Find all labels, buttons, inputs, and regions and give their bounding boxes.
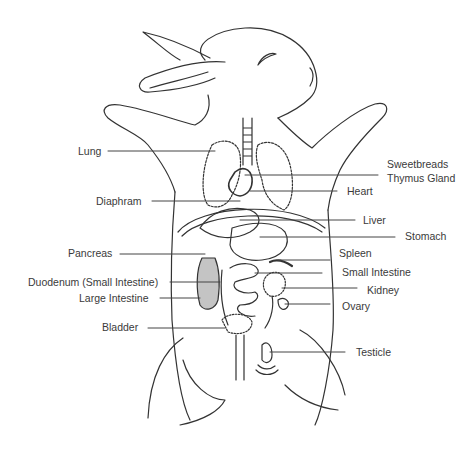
rabbit-right-hind-leg (285, 330, 345, 410)
rabbit-back-ear (143, 32, 210, 60)
label-thymus-gland: Thymus Gland (387, 172, 455, 184)
testicle (262, 343, 272, 362)
trachea (243, 118, 252, 165)
heart (229, 169, 252, 196)
label-sweetbreads: Sweetbreads (387, 158, 448, 170)
bladder (222, 314, 252, 333)
label-testicle: Testicle (356, 346, 391, 358)
label-duodenum: Duodenum (Small Intestine) (28, 276, 158, 288)
liver (200, 208, 259, 237)
rabbit-nose (310, 68, 313, 86)
label-lung: Lung (78, 145, 101, 157)
large-intestine (197, 258, 219, 309)
label-pancreas: Pancreas (68, 247, 112, 259)
rabbit-left-arm (104, 95, 209, 192)
rabbit-outline-drawing (0, 0, 475, 451)
label-spleen: Spleen (339, 247, 372, 259)
label-bladder: Bladder (102, 321, 138, 333)
label-ovary: Ovary (342, 300, 370, 312)
spleen (270, 260, 292, 266)
label-heart: Heart (347, 185, 373, 197)
stomach (230, 223, 287, 260)
label-large-intestine: Large Intestine (79, 292, 148, 304)
small-intestine (230, 264, 258, 317)
rabbit-body-left (171, 192, 190, 420)
label-kidney: Kidney (367, 284, 399, 296)
rabbit-eye (258, 53, 276, 65)
right-lung (256, 142, 292, 210)
label-diaphram: Diaphram (96, 195, 142, 207)
kidney (263, 272, 285, 296)
label-stomach: Stomach (405, 230, 446, 242)
rabbit-body-right (315, 210, 333, 425)
label-liver: Liver (363, 214, 386, 226)
rabbit-head (201, 28, 317, 118)
rabbit-anatomy-diagram: Lung Diaphram Pancreas Duodenum (Small I… (0, 0, 475, 451)
label-small-intestine: Small Intestine (342, 266, 411, 278)
